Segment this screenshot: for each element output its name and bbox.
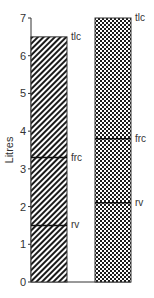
y-tick-label: 7 bbox=[20, 12, 26, 24]
tlc-label: tlc bbox=[71, 31, 81, 42]
y-tick-label: 0 bbox=[20, 276, 26, 288]
bars: tlcfrcrvtlcfrcrv bbox=[31, 12, 146, 282]
bar-1: tlcfrcrv bbox=[31, 31, 82, 282]
rv-label: rv bbox=[135, 197, 143, 208]
y-tick-label: 6 bbox=[20, 50, 26, 62]
bar-2: tlcfrcrv bbox=[95, 12, 146, 282]
y-tick-label: 2 bbox=[20, 201, 26, 213]
rv-label: rv bbox=[71, 219, 79, 230]
tlc-label: tlc bbox=[135, 12, 145, 23]
y-axis-label: Litres bbox=[3, 136, 15, 163]
frc-label: frc bbox=[71, 152, 82, 163]
lung-volumes-chart: 01234567 Litres tlcfrcrvtlcfrcrv bbox=[0, 0, 154, 298]
y-tick-label: 4 bbox=[20, 125, 26, 137]
y-tick-label: 3 bbox=[20, 163, 26, 175]
y-tick-label: 5 bbox=[20, 87, 26, 99]
frc-label: frc bbox=[135, 133, 146, 144]
y-tick-label: 1 bbox=[20, 238, 26, 250]
